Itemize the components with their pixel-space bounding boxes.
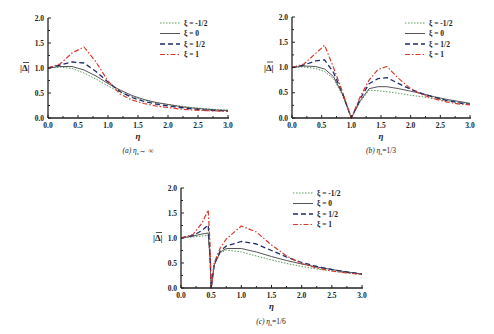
x-tick-label: 2.0 — [406, 121, 416, 130]
x-axis-label: η — [379, 131, 384, 141]
x-axis-label: η — [269, 301, 274, 311]
y-tick-label: 0.5 — [279, 88, 289, 97]
x-tick-label: 0.5 — [206, 291, 216, 300]
legend-label-xi-0: ξ = 0 — [184, 29, 199, 38]
legend-label-xi-1: ξ = 1 — [429, 50, 444, 59]
y-tick-label: 0.0 — [279, 114, 289, 123]
x-tick-label: 1.5 — [267, 291, 277, 300]
y-tick-label: 2.0 — [35, 14, 45, 23]
y-axis-label: |Δ| — [20, 63, 30, 73]
legend-label-xi-neg-half: ξ = -1/2 — [184, 19, 208, 28]
series-line-xi-0 — [292, 66, 470, 118]
y-tick-label: 1.5 — [168, 209, 178, 218]
x-tick-label: 0.0 — [287, 121, 297, 130]
series-line-xi-neg-half — [292, 67, 470, 118]
legend-label-xi-1: ξ = 1 — [317, 220, 332, 229]
x-tick-label: 3.0 — [465, 121, 475, 130]
panel-caption: (b) ηs=1/3 — [366, 146, 396, 156]
x-tick-label: 1.0 — [347, 121, 357, 130]
x-tick-label: 2.5 — [436, 121, 446, 130]
y-tick-label: 0.5 — [168, 259, 178, 268]
x-tick-label: 0.0 — [43, 121, 53, 130]
y-tick-label: 0.0 — [35, 114, 45, 123]
y-tick-label: 0.5 — [35, 89, 45, 98]
panel-caption: (c) ηs=1/6 — [256, 317, 286, 327]
x-tick-label: 1.0 — [237, 291, 247, 300]
panel-b: 0.00.51.01.52.02.53.00.00.51.01.52.0η|Δ|… — [264, 13, 475, 157]
y-tick-label: 1.5 — [279, 38, 289, 47]
legend-label-xi-half: ξ = 1/2 — [184, 40, 205, 49]
series-line-xi-neg-half — [48, 67, 228, 110]
legend-label-xi-0: ξ = 0 — [317, 199, 332, 208]
y-tick-label: 2.0 — [279, 13, 289, 22]
y-tick-label: 1.5 — [35, 39, 45, 48]
x-tick-label: 0.5 — [73, 121, 83, 130]
legend-label-xi-half: ξ = 1/2 — [429, 40, 450, 49]
x-tick-label: 1.0 — [103, 121, 113, 130]
legend-label-xi-1: ξ = 1 — [184, 50, 199, 59]
figure-canvas: 0.00.51.01.52.02.53.00.00.51.01.52.0η|Δ|… — [0, 0, 494, 334]
panel-caption: (a) ηs→ ∞ — [122, 146, 153, 156]
x-tick-label: 2.5 — [327, 291, 337, 300]
series-line-xi-0 — [181, 233, 362, 288]
x-tick-label: 3.0 — [357, 291, 367, 300]
x-tick-label: 0.0 — [176, 291, 186, 300]
legend-label-xi-0: ξ = 0 — [429, 29, 444, 38]
y-tick-label: 1.0 — [168, 234, 178, 243]
y-tick-label: 2.0 — [168, 184, 178, 193]
x-tick-label: 2.5 — [193, 121, 203, 130]
series-line-xi-1 — [48, 47, 228, 112]
x-axis-label: η — [136, 131, 141, 141]
panel-c: 0.00.51.01.52.02.53.00.00.51.01.52.0η|Δ|… — [153, 184, 367, 328]
x-tick-label: 3.0 — [223, 121, 233, 130]
series-line-xi-1 — [181, 210, 362, 288]
x-tick-label: 1.5 — [133, 121, 143, 130]
legend-label-xi-neg-half: ξ = -1/2 — [317, 189, 341, 198]
x-tick-label: 2.0 — [163, 121, 173, 130]
series-line-xi-0 — [48, 67, 228, 111]
y-axis-label: |Δ| — [264, 63, 274, 73]
legend-label-xi-neg-half: ξ = -1/2 — [429, 19, 453, 28]
x-tick-label: 2.0 — [297, 291, 307, 300]
y-tick-label: 1.0 — [279, 63, 289, 72]
x-tick-label: 0.5 — [317, 121, 327, 130]
y-axis-label: |Δ| — [153, 233, 163, 243]
legend-label-xi-half: ξ = 1/2 — [317, 210, 338, 219]
y-tick-label: 1.0 — [35, 64, 45, 73]
series-line-xi-half — [292, 60, 470, 118]
series-line-xi-neg-half — [181, 235, 362, 288]
panel-a: 0.00.51.01.52.02.53.00.00.51.01.52.0η|Δ|… — [20, 14, 233, 157]
x-tick-label: 1.5 — [376, 121, 386, 130]
y-tick-label: 0.0 — [168, 284, 178, 293]
